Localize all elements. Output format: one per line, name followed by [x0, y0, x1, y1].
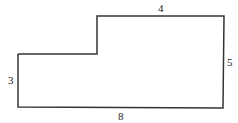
l-shape-outline: [18, 16, 224, 108]
right-side-label: 5: [227, 57, 233, 68]
top-side-label: 4: [158, 3, 164, 14]
left-side-label: 3: [8, 75, 14, 86]
l-shape-figure: [0, 0, 238, 123]
bottom-side-label: 8: [118, 111, 124, 122]
